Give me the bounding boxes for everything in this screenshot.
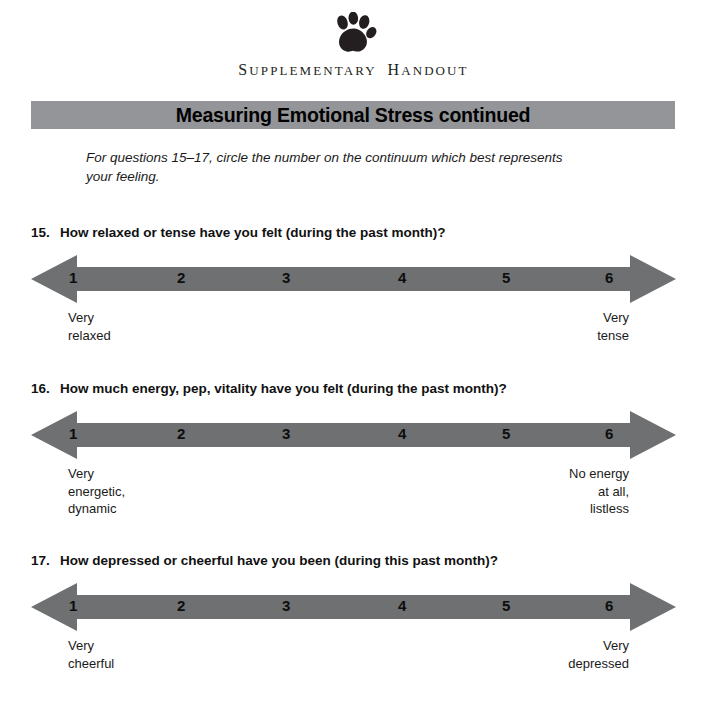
scale-number-1[interactable]: 1: [69, 422, 77, 446]
scale-number-2[interactable]: 2: [177, 422, 185, 446]
handout-label-h: H: [388, 61, 402, 78]
question-block-16: 16.How much energy, pep, vitality have y…: [0, 380, 707, 523]
scale-number-3[interactable]: 3: [282, 422, 290, 446]
scale-number-1[interactable]: 1: [69, 594, 77, 618]
scale-number-3[interactable]: 3: [282, 266, 290, 290]
scale-number-1[interactable]: 1: [69, 266, 77, 290]
scale-number-6[interactable]: 6: [605, 594, 613, 618]
scale-numbers-15: 1 2 3 4 5 6: [31, 253, 676, 305]
scale-number-5[interactable]: 5: [502, 422, 510, 446]
anchor-right-15: Very tense: [597, 309, 629, 344]
scale-number-3[interactable]: 3: [282, 594, 290, 618]
scale-numbers-17: 1 2 3 4 5 6: [31, 581, 676, 633]
question-17-text: 17.How depressed or cheerful have you be…: [31, 552, 707, 569]
question-15-label: How relaxed or tense have you felt (duri…: [60, 225, 446, 240]
anchors-17: Very cheerful Very depressed: [0, 637, 707, 695]
scale-15[interactable]: 1 2 3 4 5 6: [0, 253, 707, 305]
scale-number-4[interactable]: 4: [398, 594, 406, 618]
question-15-text: 15.How relaxed or tense have you felt (d…: [31, 224, 707, 241]
scale-number-2[interactable]: 2: [177, 594, 185, 618]
scale-numbers-16: 1 2 3 4 5 6: [31, 409, 676, 461]
handout-label: Supplementary Handout: [0, 61, 707, 79]
scale-number-4[interactable]: 4: [398, 422, 406, 446]
question-15-number: 15.: [31, 224, 60, 241]
handout-label-s: S: [238, 61, 249, 78]
question-block-15: 15.How relaxed or tense have you felt (d…: [0, 224, 707, 367]
anchor-left-15: Very relaxed: [68, 309, 111, 344]
page-title: Measuring Emotional Stress continued: [54, 101, 653, 129]
scale-number-2[interactable]: 2: [177, 266, 185, 290]
anchor-right-16: No energy at all, listless: [569, 465, 629, 518]
instruction-text: For questions 15–17, circle the number o…: [86, 148, 586, 186]
scale-number-4[interactable]: 4: [398, 266, 406, 290]
scale-number-6[interactable]: 6: [605, 422, 613, 446]
anchors-16: Very energetic, dynamic No energy at all…: [0, 465, 707, 523]
handout-label-handout: andout: [401, 63, 468, 78]
anchor-left-17: Very cheerful: [68, 637, 114, 672]
question-16-number: 16.: [31, 380, 60, 397]
question-block-17: 17.How depressed or cheerful have you be…: [0, 552, 707, 695]
scale-16[interactable]: 1 2 3 4 5 6: [0, 409, 707, 461]
paw-print-icon: [331, 12, 377, 54]
question-16-text: 16.How much energy, pep, vitality have y…: [31, 380, 707, 397]
scale-number-5[interactable]: 5: [502, 594, 510, 618]
question-17-label: How depressed or cheerful have you been …: [60, 553, 498, 568]
handout-page: Supplementary Handout Measuring Emotiona…: [0, 0, 707, 704]
anchor-left-16: Very energetic, dynamic: [68, 465, 125, 518]
anchors-15: Very relaxed Very tense: [0, 309, 707, 367]
title-banner: Measuring Emotional Stress continued: [31, 101, 675, 129]
question-17-number: 17.: [31, 552, 60, 569]
scale-number-6[interactable]: 6: [605, 266, 613, 290]
scale-17[interactable]: 1 2 3 4 5 6: [0, 581, 707, 633]
handout-label-supplementary: upplementary: [249, 63, 376, 78]
anchor-right-17: Very depressed: [568, 637, 629, 672]
masthead: Supplementary Handout: [0, 12, 707, 79]
scale-number-5[interactable]: 5: [502, 266, 510, 290]
question-16-label: How much energy, pep, vitality have you …: [60, 381, 507, 396]
